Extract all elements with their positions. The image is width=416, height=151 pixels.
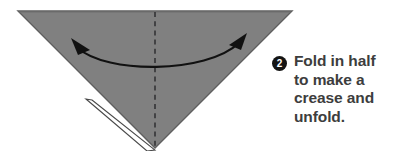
origami-instruction-diagram: 2 Fold in half to make a crease and unfo… bbox=[0, 0, 416, 151]
instruction-text: Fold in half to make a crease and unfold… bbox=[294, 52, 375, 126]
instruction-line-3: crease and bbox=[294, 89, 375, 108]
origami-figure bbox=[0, 0, 300, 151]
instruction-line-4: unfold. bbox=[294, 108, 375, 127]
instruction-block: 2 Fold in half to make a crease and unfo… bbox=[272, 52, 416, 126]
step-number-badge: 2 bbox=[272, 56, 287, 71]
instruction-line-1: Fold in half bbox=[294, 52, 375, 71]
instruction-line-2: to make a bbox=[294, 71, 375, 90]
